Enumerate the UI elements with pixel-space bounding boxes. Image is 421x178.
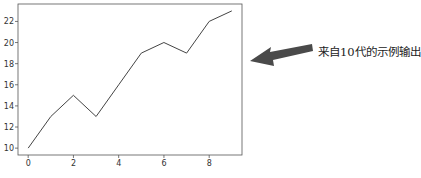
y-tick-label: 18 <box>4 60 14 69</box>
plot-frame <box>18 4 242 155</box>
x-tick-label: 0 <box>26 159 31 168</box>
left-pointing-arrow-icon <box>250 44 313 66</box>
x-tick-label: 2 <box>71 159 76 168</box>
annotation-text: 来自10代的示例输出 <box>318 43 421 59</box>
y-tick-label: 10 <box>4 144 14 153</box>
y-tick-label: 14 <box>4 102 14 111</box>
x-tick-label: 8 <box>207 159 212 168</box>
x-tick-label: 6 <box>161 159 166 168</box>
y-tick-label: 22 <box>4 17 14 26</box>
x-tick-label: 4 <box>116 159 121 168</box>
y-tick-label: 16 <box>4 81 14 90</box>
y-tick-label: 12 <box>4 123 14 132</box>
series-line <box>28 11 232 148</box>
y-tick-label: 20 <box>4 39 14 48</box>
